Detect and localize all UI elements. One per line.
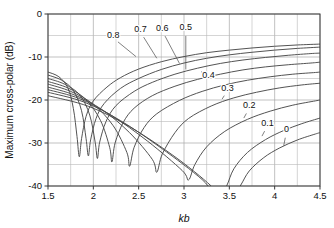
curve-label-leader (144, 37, 157, 58)
y-tick-label: -40 (28, 180, 42, 191)
curve-labels: 0.80.80.70.70.60.60.50.50.40.40.30.30.20… (107, 22, 289, 146)
chart-figure: 1.522.533.544.5 0-10-20-30-40 0.80.80.70… (0, 0, 334, 228)
curve-label-0p7: 0.7 (134, 24, 147, 34)
y-tick-labels: 0-10-20-30-40 (28, 8, 42, 191)
y-tick-label: -30 (28, 137, 42, 148)
y-tick-label: -20 (28, 94, 42, 105)
curve-label-leader (262, 131, 265, 136)
y-tick-label: 0 (37, 8, 42, 19)
x-tick-label: 2.5 (132, 190, 145, 201)
y-tick-label: -10 (28, 51, 42, 62)
grid-layer (48, 14, 320, 186)
curve-label-0p2: 0.2 (243, 100, 256, 110)
curve-label-0p1: 0.1 (261, 118, 274, 128)
curve-label-0: 0 (284, 124, 289, 134)
cross-polar-line-chart: 1.522.533.544.5 0-10-20-30-40 0.80.80.70… (0, 0, 334, 228)
curve-label-leader (222, 96, 224, 100)
curve-label-leader (244, 113, 247, 118)
curve-label-leader (118, 42, 136, 57)
x-tick-label: 4.5 (313, 190, 326, 201)
x-tick-label: 3.5 (223, 190, 236, 201)
x-axis-title: kb (178, 212, 189, 224)
curve-label-0p3: 0.3 (221, 83, 234, 93)
x-tick-label: 1.5 (41, 190, 54, 201)
curve-label-0p4: 0.4 (202, 70, 215, 80)
x-tick-label: 2 (91, 190, 96, 201)
y-axis-title: Maximum cross-polar (dB) (4, 41, 15, 158)
x-tick-label: 4 (272, 190, 277, 201)
curve-label-0p6: 0.6 (156, 23, 169, 33)
curve-label-0p8: 0.8 (107, 30, 120, 40)
x-tick-labels: 1.522.533.544.5 (41, 190, 326, 201)
curve-label-leader (284, 138, 286, 146)
x-tick-label: 3 (181, 190, 186, 201)
curve-label-0p5: 0.5 (180, 22, 193, 32)
